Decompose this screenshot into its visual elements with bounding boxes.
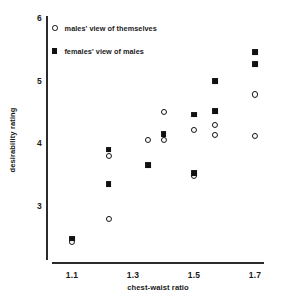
data-point-males-view [145,137,151,143]
data-point-males-view [212,121,218,127]
open-circle-marker-icon [106,215,112,221]
data-point-males-view [252,133,258,139]
filled-square-marker-icon [252,50,258,56]
open-circle-marker-icon [191,173,197,179]
legend-item-label: males' view of themselves [65,24,157,33]
filled-square-marker-icon [212,108,218,114]
y-axis-line [46,16,48,260]
filled-square-marker-icon [106,181,112,187]
data-point-males-view [106,215,112,221]
legend-item-label: females' view of males [64,47,144,56]
data-point-males-view [212,132,218,138]
filled-square-marker-icon [191,112,197,118]
scatter-plot-figure: 3456 1.11.31.51.7 chest-waist ratio desi… [0,0,282,303]
data-point-males-view [191,173,197,179]
open-circle-marker-icon [212,121,218,127]
open-circle-marker-icon [69,239,75,245]
legend: males' view of themselvesfemales' view o… [52,22,157,68]
open-circle-marker-icon [145,137,151,143]
y-tick-3: 3 [28,201,42,211]
data-point-females-view [191,112,197,118]
open-circle-marker-icon [252,133,258,139]
open-circle-marker-icon [252,91,258,97]
x-tick-1.1: 1.1 [58,270,86,280]
data-point-females-view [106,147,112,153]
filled-square-marker-icon [161,131,167,137]
filled-square-marker-icon [212,78,218,84]
legend-item-1: females' view of males [52,45,157,57]
data-point-males-view [106,153,112,159]
y-tick-4: 4 [28,138,42,148]
y-tick-5: 5 [28,76,42,86]
x-axis-title: chest-waist ratio [127,283,189,292]
filled-square-marker-icon [106,147,112,153]
data-point-females-view [106,181,112,187]
data-point-males-view [69,239,75,245]
y-axis-title: desirability rating [8,107,17,172]
open-circle-marker-icon [160,137,166,143]
data-point-females-view [212,78,218,84]
open-circle-marker-icon [52,25,58,31]
data-point-males-view [160,137,166,143]
open-circle-marker-icon [212,132,218,138]
open-circle-marker-icon [191,126,197,132]
data-point-females-view [145,162,151,168]
data-point-males-view [191,126,197,132]
data-point-males-view [160,109,166,115]
legend-item-0: males' view of themselves [52,22,157,34]
data-point-females-view [212,108,218,114]
filled-square-marker-icon [52,48,57,53]
x-tick-1.7: 1.7 [241,270,269,280]
data-point-females-view [252,61,258,67]
filled-square-marker-icon [145,162,151,168]
y-tick-6: 6 [28,13,42,23]
filled-square-marker-icon [252,61,258,67]
x-axis-line [52,262,264,264]
x-tick-1.3: 1.3 [119,270,147,280]
data-point-females-view [161,131,167,137]
open-circle-marker-icon [106,153,112,159]
data-point-females-view [252,50,258,56]
open-circle-marker-icon [160,109,166,115]
data-point-males-view [252,91,258,97]
x-tick-1.5: 1.5 [180,270,208,280]
